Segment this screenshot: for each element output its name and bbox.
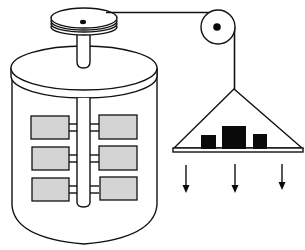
- drum-axle-dot: [80, 20, 86, 24]
- shaft: [77, 98, 90, 207]
- paddle: [32, 178, 69, 201]
- drum-stem: [77, 30, 90, 68]
- arrow-down-icon: [279, 164, 286, 190]
- paddle: [99, 146, 137, 170]
- paddle: [99, 115, 137, 139]
- paddle: [31, 116, 69, 139]
- arrow-down-icon: [183, 165, 190, 193]
- paddle: [32, 147, 69, 170]
- apparatus-diagram: [0, 0, 305, 250]
- diagram-canvas: [0, 0, 305, 250]
- paddle: [100, 177, 137, 200]
- weight-large-center: [222, 126, 246, 149]
- pulley-hub: [213, 23, 221, 31]
- force-arrows: [183, 164, 286, 193]
- weight-small-right: [253, 134, 267, 149]
- weight-small-left: [201, 135, 216, 149]
- shaft-body: [77, 98, 90, 207]
- side-pulley: [201, 10, 235, 44]
- arrow-down-icon: [232, 164, 239, 193]
